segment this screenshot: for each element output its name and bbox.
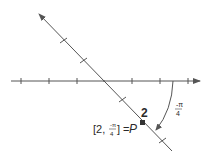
- angle-line: [39, 14, 172, 151]
- angle-arc: [156, 81, 173, 130]
- polar-diagram: 2 -π 4 [2, -π 4 ] = P: [0, 0, 214, 162]
- pole: [103, 80, 105, 82]
- point-label-suffix: ] =: [117, 123, 130, 135]
- angle-label-den: 4: [176, 110, 180, 117]
- point-p: [140, 120, 145, 125]
- point-label-name: P: [129, 122, 137, 136]
- point-label-prefix: [2,: [93, 123, 105, 135]
- angle-label: -π 4: [175, 101, 183, 117]
- angle-label-num: -π: [176, 101, 183, 108]
- point-label: [2, -π 4 ] = P: [93, 122, 137, 137]
- polar-plot-svg: 2 -π 4 [2, -π 4 ] = P: [0, 0, 214, 162]
- radius-label: 2: [141, 106, 148, 120]
- point-label-theta-den: 4: [110, 131, 114, 137]
- point-label-theta-num: -π: [110, 122, 116, 128]
